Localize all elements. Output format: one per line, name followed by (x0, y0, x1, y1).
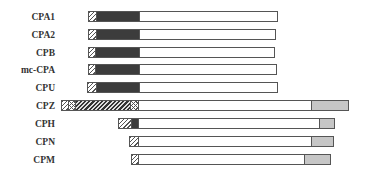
segment-white (139, 11, 278, 22)
segment-gray (304, 154, 331, 165)
row-label: CPM (0, 154, 55, 166)
segment-white (139, 64, 277, 75)
row-label: CPH (0, 118, 55, 130)
row-label: CPN (0, 136, 55, 148)
segment-dark (96, 82, 140, 93)
segment-white (138, 136, 312, 147)
row-label: CPA2 (0, 29, 55, 41)
segment-gray (319, 118, 335, 129)
segment-dark (95, 64, 140, 75)
row-label: mc-CPA (0, 64, 55, 76)
segment-hatch (118, 118, 132, 129)
segment-white (139, 82, 278, 93)
row-label: CPB (0, 47, 55, 59)
segment-white (139, 29, 276, 40)
segment-white (138, 154, 305, 165)
segment-dark (96, 29, 140, 40)
segment-hatch-dense (75, 100, 131, 111)
segment-gray (311, 136, 334, 147)
row-label: CPU (0, 82, 55, 94)
segment-gray (311, 100, 349, 111)
row-label: CPA1 (0, 11, 55, 23)
segment-dark (95, 47, 140, 58)
segment-white (138, 100, 312, 111)
segment-white (138, 118, 320, 129)
segment-white (139, 47, 275, 58)
segment-dark (96, 11, 140, 22)
row-label: CPZ (0, 100, 55, 112)
